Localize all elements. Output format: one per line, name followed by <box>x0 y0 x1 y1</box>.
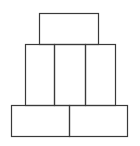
bottom-block-2 <box>70 106 128 137</box>
middle-block-2 <box>55 45 86 106</box>
middle-block-3 <box>86 45 116 106</box>
middle-block-1 <box>26 45 55 106</box>
top-block-1 <box>40 14 99 45</box>
stacked-blocks-diagram <box>0 0 140 146</box>
blocks-group <box>12 14 128 137</box>
bottom-block-1 <box>12 106 70 137</box>
